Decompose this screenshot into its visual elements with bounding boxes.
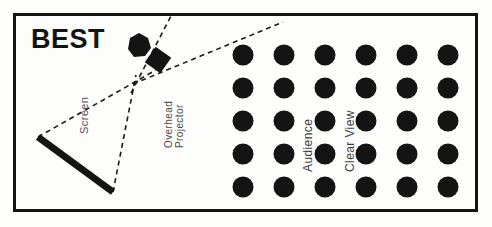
audience-dot xyxy=(315,78,336,99)
overhead-projector-label: Overhead Projector xyxy=(163,101,185,148)
screen-bar xyxy=(38,137,113,192)
audience-dot xyxy=(233,144,254,165)
audience-dot xyxy=(315,111,336,132)
audience-dot xyxy=(233,111,254,132)
audience-dot xyxy=(438,111,459,132)
audience-dot xyxy=(274,78,295,99)
audience-label: Audience xyxy=(301,119,315,172)
audience-dot xyxy=(397,45,418,66)
audience-dot xyxy=(356,45,377,66)
audience-dot xyxy=(397,177,418,198)
audience-dot xyxy=(233,78,254,99)
audience-dot xyxy=(356,78,377,99)
audience-dot xyxy=(438,177,459,198)
audience-dot xyxy=(315,177,336,198)
screen-label: Screen xyxy=(78,97,90,134)
audience-dot xyxy=(397,78,418,99)
audience-dot xyxy=(315,144,336,165)
audience-dot xyxy=(274,177,295,198)
figure-canvas: BEST Screen Overhead Projector Audience … xyxy=(0,0,492,227)
audience-dot xyxy=(356,177,377,198)
audience-dot xyxy=(274,144,295,165)
audience-dot xyxy=(438,144,459,165)
sight-line-screen-top-to-projector xyxy=(38,70,156,137)
overhead-projector-label-line1: Overhead xyxy=(163,101,174,148)
audience-dot xyxy=(233,45,254,66)
audience-dot xyxy=(438,45,459,66)
audience-dot xyxy=(356,144,377,165)
audience-dot xyxy=(438,78,459,99)
audience-dot xyxy=(356,111,377,132)
audience-dot xyxy=(233,177,254,198)
clear-view-label: Clear View xyxy=(343,110,357,172)
audience-dot xyxy=(397,144,418,165)
audience-dot xyxy=(397,111,418,132)
audience-dot xyxy=(315,45,336,66)
overhead-projector-label-line2: Projector xyxy=(174,101,185,148)
audience-dot xyxy=(274,45,295,66)
page-title: BEST xyxy=(31,26,105,53)
projector-body-icon xyxy=(128,33,151,57)
audience-dot xyxy=(274,111,295,132)
